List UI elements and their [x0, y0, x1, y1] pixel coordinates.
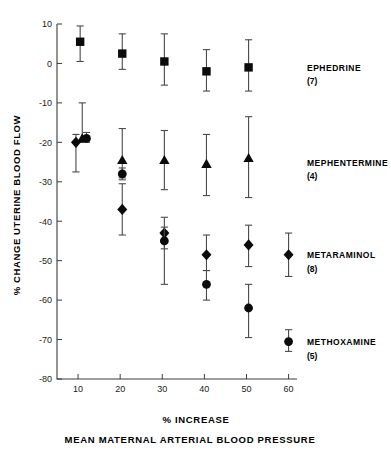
x-tick-label: 10: [73, 384, 83, 394]
marker-square: [244, 63, 252, 71]
series-label-text: METHOXAMINE: [307, 337, 376, 347]
marker-circle: [202, 280, 211, 289]
x-tick-label: 60: [284, 384, 294, 394]
marker-square: [160, 57, 168, 65]
y-tick-label: -60: [39, 295, 52, 305]
y-axis-title-text: % CHANGE UTERINE BLOOD FLOW: [11, 115, 22, 295]
uterine-blood-flow-scatter-chart: 100-10-20-30-40-50-60-70-80 102030405060…: [0, 0, 391, 456]
y-axis-title: % CHANGE UTERINE BLOOD FLOW: [11, 115, 22, 295]
marker-circle: [244, 304, 253, 313]
x-tick-label: 20: [115, 384, 125, 394]
y-tick-label: 0: [47, 59, 52, 69]
y-tick-label: -10: [39, 98, 52, 108]
series-label-text: METARAMINOL: [307, 250, 376, 260]
y-tick-label: -30: [39, 177, 52, 187]
marker-square: [76, 38, 84, 46]
marker-square: [202, 67, 210, 75]
x-tick-label: 40: [199, 384, 209, 394]
y-tick-label: -20: [39, 138, 52, 148]
series-n-text: (5): [307, 351, 318, 361]
marker-circle: [284, 337, 293, 346]
series-n-text: (7): [307, 76, 318, 86]
series-label-text: EPHEDRINE: [307, 63, 361, 73]
series-n-text: (8): [307, 264, 318, 274]
y-tick-label: -40: [39, 217, 52, 227]
series-n-text: (4): [307, 171, 318, 181]
marker-circle: [82, 134, 91, 143]
series-label-text: MEPHENTERMINE: [307, 158, 388, 168]
y-tick-label: -70: [39, 335, 52, 345]
chart-figure: 100-10-20-30-40-50-60-70-80 102030405060…: [0, 0, 391, 456]
y-tick-label: 10: [42, 19, 52, 29]
x-tick-label: 30: [157, 384, 167, 394]
marker-square: [118, 49, 126, 57]
x-axis-title-line2: MEAN MATERNAL ARTERIAL BLOOD PRESSURE: [65, 434, 316, 445]
y-tick-label: -50: [39, 256, 52, 266]
marker-circle: [160, 237, 169, 246]
x-axis-title-line1: % INCREASE: [162, 414, 229, 425]
y-tick-label: -80: [39, 374, 52, 384]
x-tick-label: 50: [241, 384, 251, 394]
marker-circle: [118, 169, 127, 178]
